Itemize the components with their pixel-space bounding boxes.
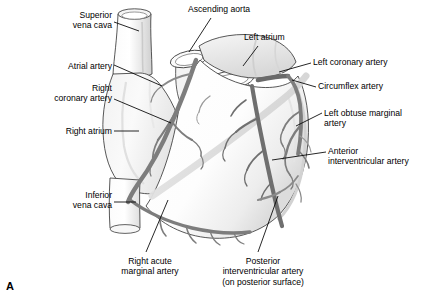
label-left-atrium: Left atrium: [244, 32, 324, 42]
superior-vena-cava-shape: [113, 9, 152, 79]
label-circumflex-artery: Circumflex artery: [318, 81, 443, 91]
anatomy-figure: Superior vena cava Atrial artery Right c…: [0, 0, 443, 308]
label-anterior-interventricular-artery: Anterior interventricular artery: [328, 146, 443, 167]
label-superior-vena-cava: Superior vena cava: [36, 10, 112, 31]
label-right-acute-marginal-artery: Right acute marginal artery: [104, 256, 196, 277]
label-atrial-artery: Atrial artery: [28, 61, 112, 71]
label-posterior-interventricular-artery: Posterior interventricular artery (on po…: [202, 256, 324, 287]
label-left-coronary-artery: Left coronary artery: [313, 57, 443, 67]
label-right-atrium: Right atrium: [28, 126, 112, 136]
label-ascending-aorta: Ascending aorta: [188, 4, 298, 14]
heart-body: [103, 9, 311, 245]
label-inferior-vena-cava: Inferior vena cava: [34, 190, 112, 211]
label-right-coronary-artery: Right coronary artery: [10, 83, 112, 104]
panel-letter: A: [6, 280, 14, 292]
label-left-obtuse-marginal-artery: Left obtuse marginal artery: [324, 108, 443, 129]
